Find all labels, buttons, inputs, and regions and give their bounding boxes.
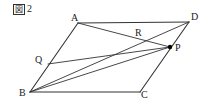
segment-QP	[48, 47, 170, 64]
diagram-canvas	[0, 0, 210, 110]
geometry-figure-panel: 図2 A B C D P Q R	[0, 0, 210, 110]
vertex-label-R: R	[135, 28, 142, 38]
point-markers	[168, 45, 172, 49]
vertex-label-P: P	[175, 43, 181, 53]
vertex-label-D: D	[191, 12, 198, 22]
vertex-label-A: A	[71, 13, 78, 23]
vertex-label-C: C	[141, 90, 148, 100]
segment-AP	[78, 23, 170, 47]
point-P-marker	[168, 45, 172, 49]
side-AD	[78, 22, 189, 23]
segment-BP	[30, 47, 170, 92]
vertex-label-B: B	[19, 88, 26, 98]
vertex-label-Q: Q	[35, 55, 42, 65]
